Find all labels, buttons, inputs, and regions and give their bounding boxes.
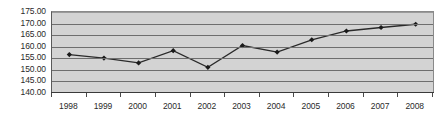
gridline bbox=[52, 47, 433, 48]
x-axis-tick bbox=[259, 93, 260, 97]
data-point-marker bbox=[275, 49, 280, 54]
y-axis: 140.00145.00150.00155.00160.00165.00170.… bbox=[0, 0, 50, 99]
gridline bbox=[52, 35, 433, 36]
data-point-marker bbox=[309, 37, 314, 42]
x-axis-tick bbox=[293, 93, 294, 97]
x-axis-tick bbox=[432, 93, 433, 97]
x-axis-line bbox=[51, 92, 434, 93]
x-axis-tick bbox=[328, 93, 329, 97]
gridline bbox=[52, 58, 433, 59]
x-tick-label: 2007 bbox=[371, 101, 390, 112]
gridline bbox=[52, 70, 433, 71]
x-tick-label: 2008 bbox=[405, 101, 424, 112]
x-tick-label: 2003 bbox=[232, 101, 251, 112]
x-tick-label: 2001 bbox=[163, 101, 182, 112]
data-point-marker bbox=[171, 48, 176, 53]
data-point-marker bbox=[67, 52, 72, 57]
x-axis-tick bbox=[51, 93, 52, 97]
y-tick-label: 175.00 bbox=[21, 7, 46, 16]
y-tick-label: 150.00 bbox=[21, 64, 46, 73]
x-axis-tick bbox=[363, 93, 364, 97]
gridline bbox=[52, 12, 433, 13]
x-tick-label: 2005 bbox=[302, 101, 321, 112]
y-tick-label: 160.00 bbox=[21, 41, 46, 50]
y-tick-label: 145.00 bbox=[21, 76, 46, 85]
data-point-marker bbox=[344, 28, 349, 33]
line-chart: 140.00145.00150.00155.00160.00165.00170.… bbox=[0, 0, 441, 129]
y-tick-label: 155.00 bbox=[21, 53, 46, 62]
y-tick-label: 140.00 bbox=[21, 88, 46, 97]
data-point-marker bbox=[378, 25, 383, 30]
x-axis: 1998199920002001200220032004200520062007… bbox=[51, 101, 432, 117]
plot-area bbox=[51, 11, 434, 93]
gridline bbox=[52, 81, 433, 82]
x-tick-label: 1999 bbox=[94, 101, 113, 112]
x-axis-tick bbox=[86, 93, 87, 97]
x-tick-label: 2006 bbox=[336, 101, 355, 112]
x-axis-tick bbox=[190, 93, 191, 97]
x-tick-label: 2002 bbox=[198, 101, 217, 112]
gridline bbox=[52, 24, 433, 25]
y-tick-label: 165.00 bbox=[21, 30, 46, 39]
x-tick-label: 1998 bbox=[59, 101, 78, 112]
x-axis-tick bbox=[224, 93, 225, 97]
x-tick-label: 2000 bbox=[128, 101, 147, 112]
x-axis-tick bbox=[120, 93, 121, 97]
data-point-marker bbox=[136, 60, 141, 65]
x-tick-label: 2004 bbox=[267, 101, 286, 112]
y-tick-label: 170.00 bbox=[21, 18, 46, 27]
x-axis-tick bbox=[155, 93, 156, 97]
x-axis-tick bbox=[397, 93, 398, 97]
